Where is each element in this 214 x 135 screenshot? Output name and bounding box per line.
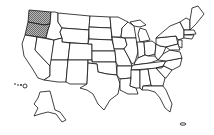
state-colorado[interactable] — [68, 43, 92, 60]
us-map-svg — [0, 0, 214, 135]
state-kansas[interactable] — [92, 51, 116, 62]
state-michigan-lower[interactable] — [138, 28, 150, 42]
state-florida[interactable] — [142, 86, 172, 112]
state-iowa[interactable] — [112, 37, 127, 49]
state-mississippi[interactable] — [130, 70, 140, 88]
state-nebraska[interactable] — [88, 39, 115, 51]
state-montana[interactable] — [58, 13, 90, 30]
state-wyoming[interactable] — [60, 28, 89, 44]
state-north-dakota[interactable] — [89, 16, 111, 28]
state-south-dakota[interactable] — [89, 27, 112, 40]
state-massachusetts[interactable] — [184, 30, 196, 35]
state-maine[interactable] — [190, 6, 204, 30]
state-connecticut-ri[interactable] — [184, 35, 194, 39]
state-arkansas[interactable] — [117, 66, 132, 79]
island-small — [180, 123, 186, 125]
us-map: United States map — [0, 0, 214, 135]
state-ohio[interactable] — [144, 41, 156, 56]
state-new-mexico[interactable] — [66, 60, 88, 84]
state-hawaii[interactable] — [14, 83, 27, 88]
state-alaska[interactable] — [34, 91, 66, 122]
